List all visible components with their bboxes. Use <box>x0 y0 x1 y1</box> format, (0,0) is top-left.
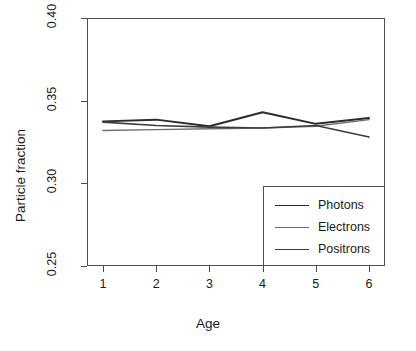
x-tick-mark <box>103 266 104 272</box>
y-tick-mark <box>81 18 87 19</box>
x-tick-label: 4 <box>243 277 283 291</box>
x-tick-label: 1 <box>83 277 123 291</box>
legend-label-electrons: Electrons <box>318 220 370 234</box>
x-tick-mark <box>263 266 264 272</box>
legend-entry-2: Positrons <box>264 238 386 260</box>
legend-entry-1: Electrons <box>264 216 386 238</box>
x-tick-mark <box>369 266 370 272</box>
legend-swatch-positrons <box>275 249 309 250</box>
y-tick-mark <box>81 183 87 184</box>
legend-box: Photons Electrons Positrons <box>263 186 385 266</box>
x-axis-title: Age <box>0 316 416 331</box>
y-tick-mark <box>81 266 87 267</box>
x-tick-label: 5 <box>296 277 336 291</box>
y-tick-mark <box>81 101 87 102</box>
x-tick-label: 6 <box>349 277 389 291</box>
legend-swatch-electrons <box>275 227 309 228</box>
y-tick-label: 0.35 <box>45 77 59 121</box>
plot-lines <box>0 0 416 351</box>
legend-swatch-photons <box>275 205 309 206</box>
x-tick-mark <box>156 266 157 272</box>
chart-figure: Particle fraction 0.250.300.350.40 12345… <box>0 0 416 351</box>
x-tick-mark <box>316 266 317 272</box>
legend-label-photons: Photons <box>318 198 364 212</box>
x-tick-mark <box>209 266 210 272</box>
x-tick-label: 2 <box>136 277 176 291</box>
x-tick-label: 3 <box>189 277 229 291</box>
legend-label-positrons: Positrons <box>318 242 370 256</box>
legend-entry-0: Photons <box>264 194 386 216</box>
x-axis-title-text: Age <box>196 316 220 331</box>
y-tick-label: 0.25 <box>45 242 59 286</box>
y-tick-label: 0.30 <box>45 159 59 203</box>
y-tick-label: 0.40 <box>45 0 59 38</box>
